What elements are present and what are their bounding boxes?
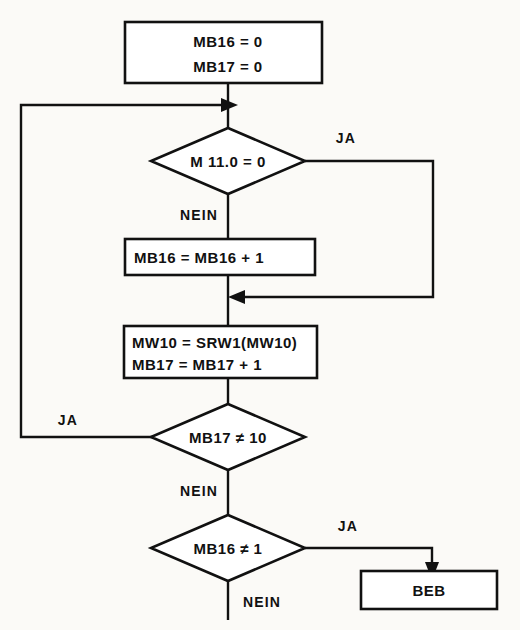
branch-label-mb17-no: NEIN	[180, 483, 218, 499]
decision-m110-label: M 11.0 = 0	[190, 153, 265, 170]
process-shift-line2: MB17 = MB17 + 1	[132, 356, 262, 373]
process-init-line2: MB17 = 0	[193, 58, 262, 75]
branch-label-m110-yes: JA	[336, 130, 356, 146]
flowchart-canvas: MB16 = 0 MB17 = 0 M 11.0 = 0 MB16 = MB16…	[0, 0, 520, 630]
branch-label-m110-no: NEIN	[180, 207, 218, 223]
arrowhead-m110-yes	[228, 290, 245, 304]
decision-mb17-label: MB17 ≠ 10	[189, 429, 267, 446]
branch-label-mb16-no: NEIN	[243, 594, 281, 610]
decision-mb16-label: MB16 ≠ 1	[194, 540, 263, 557]
branch-label-mb16-yes: JA	[338, 518, 358, 534]
connector-m110-yes	[245, 161, 433, 297]
process-shift-line1: MW10 = SRW1(MW10)	[132, 334, 297, 351]
arrowhead-loop-mb17-yes	[221, 98, 238, 112]
branch-label-mb17-yes: JA	[58, 412, 78, 428]
process-inc-mb16-label: MB16 = MB16 + 1	[134, 249, 264, 266]
process-init-line1: MB16 = 0	[193, 33, 262, 50]
terminal-beb-label: BEB	[412, 582, 445, 599]
connector-mb16-yes	[305, 548, 432, 562]
